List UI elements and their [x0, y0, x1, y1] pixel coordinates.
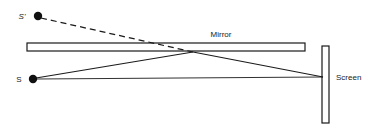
mirror-label: Mirror: [211, 30, 232, 39]
source-image-label: S': [19, 12, 26, 21]
source-image-point: [34, 12, 42, 20]
optics-diagram-canvas: S' S Mirror Screen: [0, 0, 381, 130]
source-point: [29, 75, 37, 83]
screen-bar: [322, 46, 329, 123]
screen-label: Screen: [336, 73, 361, 82]
optics-diagram: S' S Mirror Screen: [0, 0, 381, 130]
mirror-bar: [27, 43, 305, 51]
source-label: S: [16, 75, 21, 84]
